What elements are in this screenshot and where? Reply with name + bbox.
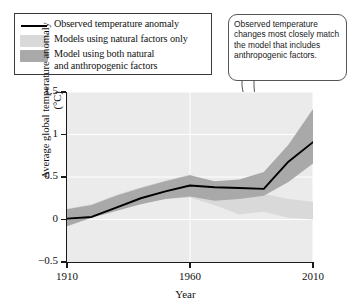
x-tick-label: 1910 xyxy=(44,270,90,282)
y-axis-spine xyxy=(66,92,67,263)
x-tick-label: 1960 xyxy=(167,270,213,282)
x-tick-mark xyxy=(312,263,313,268)
x-tick-mark xyxy=(189,263,190,268)
annotation-callout-text: Observed temperature changes most closel… xyxy=(234,19,341,60)
x-tick-mark xyxy=(66,263,67,268)
x-axis-title-text: Year xyxy=(175,288,195,300)
chart-plot-area xyxy=(67,92,313,262)
legend-label-anthropogenic: Model using both natural and anthropogen… xyxy=(54,48,157,71)
y-tick-mark xyxy=(61,261,66,262)
y-tick-label: −0.5 xyxy=(14,254,58,266)
legend-label-observed: Observed temperature anomaly xyxy=(54,18,179,30)
chart-svg xyxy=(67,92,313,262)
y-tick-mark xyxy=(61,219,66,220)
y-tick-label: 0 xyxy=(14,212,58,224)
y-axis-title: Average global temperature anomaly (°C) xyxy=(40,12,65,188)
x-tick-label: 2010 xyxy=(290,270,336,282)
annotation-callout: Observed temperature changes most closel… xyxy=(228,14,347,81)
x-axis-title: Year xyxy=(0,288,357,300)
legend-label-natural: Models using natural factors only xyxy=(54,33,188,45)
